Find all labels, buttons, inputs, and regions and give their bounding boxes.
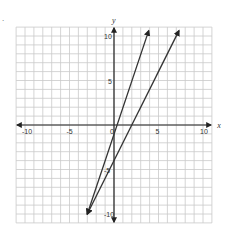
x-axis-label: x xyxy=(216,121,221,130)
y-tick-label: 5 xyxy=(108,78,112,85)
plotted-line xyxy=(87,31,179,214)
x-tick-label: -5 xyxy=(67,128,73,135)
x-tick-label: 10 xyxy=(200,128,208,135)
plotted-lines xyxy=(87,31,179,214)
y-tick-label: -10 xyxy=(104,211,114,218)
x-tick-label: -10 xyxy=(22,128,32,135)
coordinate-plane: xy -10-50510105-5-10 xyxy=(0,0,225,238)
x-tick-label: 0 xyxy=(110,128,114,135)
y-axis-label: y xyxy=(111,16,116,25)
x-tick-label: 5 xyxy=(156,128,160,135)
y-tick-label: 10 xyxy=(104,33,112,40)
